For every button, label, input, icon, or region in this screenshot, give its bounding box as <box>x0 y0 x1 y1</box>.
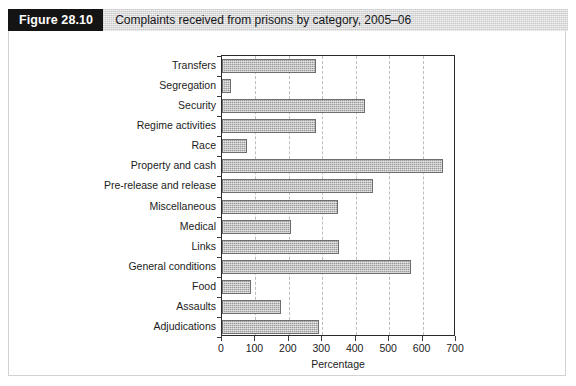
bar <box>222 260 411 274</box>
bar-fill <box>222 99 365 113</box>
y-axis-label: Race <box>191 139 216 151</box>
bar-series <box>222 56 454 335</box>
y-axis-tick <box>217 217 222 218</box>
bar <box>222 280 251 294</box>
x-axis-tick <box>455 336 456 341</box>
y-axis-label: Transfers <box>172 59 216 71</box>
y-axis-tick <box>217 317 222 318</box>
x-axis-tick-label: 200 <box>279 342 297 354</box>
y-axis-label: Assaults <box>176 300 216 312</box>
y-axis-tick <box>217 237 222 238</box>
y-axis-category-labels: TransfersSegregationSecurityRegime activ… <box>60 55 216 336</box>
bar <box>222 300 281 314</box>
y-axis-label: General conditions <box>128 260 216 272</box>
x-axis-tick-label: 300 <box>313 342 331 354</box>
x-axis-tick <box>422 336 423 341</box>
bar-fill <box>222 159 443 173</box>
y-axis-label: Food <box>192 280 216 292</box>
y-axis-tick <box>217 96 222 97</box>
y-axis-label: Medical <box>180 220 216 232</box>
bar <box>222 159 443 173</box>
y-axis-tick <box>217 136 222 137</box>
x-axis-tick-label: 700 <box>446 342 464 354</box>
y-axis-tick <box>217 197 222 198</box>
bar <box>222 200 338 214</box>
y-axis-label: Miscellaneous <box>149 200 216 212</box>
bar-fill <box>222 59 316 73</box>
bar <box>222 139 247 153</box>
bar <box>222 220 291 234</box>
x-axis-tick <box>355 336 356 341</box>
figure-container: Figure 28.10 Complaints received from pr… <box>0 0 576 386</box>
bar-fill <box>222 179 373 193</box>
y-axis-tick <box>217 56 222 57</box>
y-axis-tick <box>217 257 222 258</box>
x-axis-tick <box>288 336 289 341</box>
bar-fill <box>222 119 316 133</box>
x-axis-tick <box>254 336 255 341</box>
bar <box>222 79 231 93</box>
y-axis-label: Pre-release and release <box>104 179 216 191</box>
x-axis-tick-label: 100 <box>246 342 264 354</box>
bar <box>222 119 316 133</box>
x-axis-tick <box>388 336 389 341</box>
y-axis-label: Security <box>178 99 216 111</box>
y-axis-tick <box>217 277 222 278</box>
x-axis-title: Percentage <box>221 358 455 370</box>
bar-chart: TransfersSegregationSecurityRegime activ… <box>0 0 576 386</box>
bar-fill <box>222 220 291 234</box>
bar-fill <box>222 139 247 153</box>
bar-fill <box>222 79 231 93</box>
y-axis-label: Links <box>191 240 216 252</box>
y-axis-tick <box>217 297 222 298</box>
y-axis-tick <box>217 156 222 157</box>
bar <box>222 240 339 254</box>
bar-fill <box>222 320 319 334</box>
y-axis-tick <box>217 116 222 117</box>
y-axis-label: Regime activities <box>137 119 216 131</box>
bar-fill <box>222 200 338 214</box>
bar-fill <box>222 300 281 314</box>
y-axis-label: Property and cash <box>131 159 216 171</box>
bar <box>222 320 319 334</box>
x-axis-tick <box>321 336 322 341</box>
x-axis-tick-label: 400 <box>346 342 364 354</box>
bar <box>222 59 316 73</box>
x-axis-tick-label: 600 <box>413 342 431 354</box>
bar <box>222 179 373 193</box>
y-axis-label: Adjudications <box>154 320 216 332</box>
bar-fill <box>222 260 411 274</box>
bar <box>222 99 365 113</box>
x-axis-tick-label: 500 <box>379 342 397 354</box>
x-axis-tick <box>221 336 222 341</box>
bar-fill <box>222 240 339 254</box>
plot-area <box>221 55 455 336</box>
y-axis-tick <box>217 176 222 177</box>
y-axis-tick <box>217 76 222 77</box>
bar-fill <box>222 280 251 294</box>
x-axis-tick-label: 0 <box>218 342 224 354</box>
y-axis-label: Segregation <box>159 79 216 91</box>
